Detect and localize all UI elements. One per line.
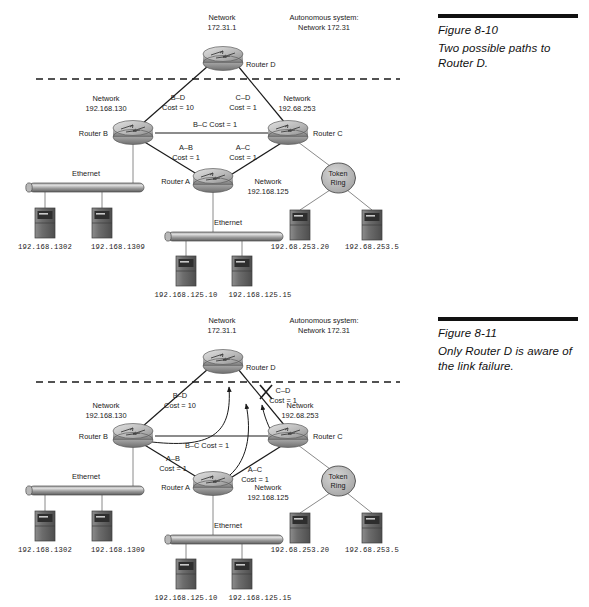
figure-caption-text: Two possible paths to Router D.	[438, 41, 578, 71]
host-icon	[232, 256, 252, 286]
host-a1-address-label: 192.168.125.10	[154, 594, 217, 602]
figure-caption-1: Figure 8-10 Two possible paths to Router…	[438, 14, 578, 71]
diagram-canvas-1	[0, 0, 420, 303]
host-c1-address-label: 192.68.253.20	[271, 243, 330, 251]
host-icon	[290, 513, 310, 543]
network-b-label: Network 192.168.130	[85, 401, 126, 420]
host-b1-address-label: 192.168.1302	[18, 546, 72, 554]
ethernet-segment-a	[165, 232, 283, 241]
figure-caption-2: Figure 8-11 Only Router D is aware of th…	[438, 317, 578, 374]
router-a-icon	[193, 169, 233, 193]
network-d-label: Network 172.31.1	[208, 316, 237, 335]
host-icon	[290, 210, 310, 240]
host-a1-address-label: 192.168.125.10	[154, 291, 217, 299]
link-bc-cost-label: B–C Cost = 1	[185, 441, 229, 450]
figure-number: Figure 8-10	[438, 24, 578, 36]
figure-8-10: Token Ring Network 172.31.1 Autonomous s…	[0, 0, 589, 303]
link-bc-cost-label: B–C Cost = 1	[193, 120, 237, 129]
link-ac-cost-label: A–C Cost = 1	[229, 143, 257, 162]
ethernet-b-label: Ethernet	[72, 169, 100, 178]
drop-c-tokenring	[298, 445, 330, 469]
router-a-icon	[193, 472, 233, 496]
network-diagram-2: Token Ring Network 172.31.1 Autonomous s…	[0, 303, 420, 606]
router-a-label: Router A	[161, 483, 190, 492]
router-b-icon	[113, 424, 153, 448]
drop-tokenring-host1	[300, 493, 330, 513]
router-c-icon	[268, 424, 308, 448]
caption-rule	[438, 317, 578, 321]
host-c1-address-label: 192.68.253.20	[271, 546, 330, 554]
host-b2-address-label: 192.168.1309	[91, 243, 145, 251]
network-d-label: Network 172.31.1	[208, 13, 237, 32]
router-a-label: Router A	[161, 177, 190, 186]
token-ring-icon	[322, 163, 356, 193]
link-bd-cost-label: B–D Cost = 10	[162, 93, 194, 112]
token-ring-icon	[322, 466, 356, 496]
host-icon	[176, 559, 196, 589]
network-a-label: Network 192.168.125	[247, 177, 288, 196]
host-a2-address-label: 192.168.125.15	[228, 594, 291, 602]
figure-caption-text: Only Router D is aware of the link failu…	[438, 344, 578, 374]
ethernet-segment-b	[26, 183, 144, 192]
network-b-label: Network 192.168.130	[85, 94, 126, 113]
host-icon	[362, 210, 382, 240]
host-c2-address-label: 192.68.253.5	[345, 546, 399, 554]
network-a-label: Network 192.168.125	[247, 483, 288, 502]
host-b2-address-label: 192.168.1309	[91, 546, 145, 554]
link-bd-cost-label: B–D Cost = 10	[164, 391, 196, 410]
link-ac-cost-label: A–C Cost = 1	[241, 465, 269, 484]
router-d-label: Router D	[246, 363, 276, 372]
drop-tokenring-host1	[300, 190, 330, 210]
link-ab-cost-label: A–B Cost = 1	[159, 454, 187, 473]
host-icon	[176, 256, 196, 286]
router-c-label: Router C	[313, 129, 343, 138]
link-cd-cost-label: C–D Cost = 1	[269, 386, 297, 405]
router-c-label: Router C	[313, 432, 343, 441]
link-ab-cost-label: A–B Cost = 1	[172, 143, 200, 162]
host-icon	[35, 511, 55, 541]
host-icon	[362, 513, 382, 543]
network-c-label: Network 192.68.253	[279, 94, 316, 113]
autonomous-system-label: Autonomous system: Network 172.31	[289, 13, 358, 32]
router-b-label: Router B	[79, 432, 108, 441]
ethernet-a-label: Ethernet	[214, 521, 242, 530]
drop-c-tokenring	[298, 142, 330, 166]
network-diagram-1: Token Ring Network 172.31.1 Autonomous s…	[0, 0, 420, 303]
host-icon	[232, 559, 252, 589]
router-c-icon	[268, 121, 308, 145]
drop-tokenring-host2	[347, 493, 372, 513]
host-b1-address-label: 192.168.1302	[18, 243, 72, 251]
caption-rule	[438, 14, 578, 18]
router-b-label: Router B	[79, 129, 108, 138]
figure-8-11: Token Ring Network 172.31.1 Autonomous s…	[0, 303, 589, 606]
ethernet-b-label: Ethernet	[72, 472, 100, 481]
router-b-icon	[113, 121, 153, 145]
host-icon	[92, 208, 112, 238]
ethernet-a-label: Ethernet	[214, 218, 242, 227]
host-icon	[35, 208, 55, 238]
drop-tokenring-host2	[347, 190, 372, 210]
ethernet-segment-a	[165, 535, 283, 544]
host-c2-address-label: 192.68.253.5	[345, 243, 399, 251]
ethernet-segment-b	[26, 486, 144, 495]
router-d-icon	[203, 350, 243, 374]
router-d-label: Router D	[246, 60, 276, 69]
autonomous-system-label: Autonomous system: Network 172.31	[289, 316, 358, 335]
diagram-canvas-2	[0, 303, 420, 606]
link-cd-cost-label: C–D Cost = 1	[229, 93, 257, 112]
host-a2-address-label: 192.168.125.15	[228, 291, 291, 299]
figure-number: Figure 8-11	[438, 327, 578, 339]
router-d-icon	[203, 47, 243, 71]
host-icon	[92, 511, 112, 541]
